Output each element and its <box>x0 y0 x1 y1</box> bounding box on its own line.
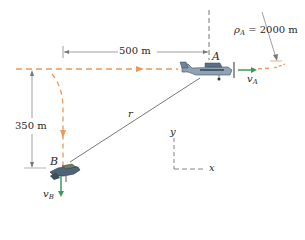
point-b-label: B <box>50 155 58 168</box>
dim-500-label: 500 m <box>119 45 151 56</box>
dim-500-arrow-right-icon <box>203 50 208 54</box>
dim-500-arrow-left-icon <box>64 50 69 54</box>
position-vector-label: r <box>128 108 133 119</box>
position-vector-r <box>70 78 200 162</box>
velocity-b-arrow-icon <box>58 191 64 197</box>
radius-arrow-icon <box>273 54 278 61</box>
path-a-curve <box>274 64 285 68</box>
point-a-label: A <box>212 50 220 63</box>
axis-y-label: y <box>170 126 176 137</box>
dim-350-arrow-bottom-icon <box>30 162 34 168</box>
axis-x-label: x <box>209 162 215 173</box>
radius-label: ρA = 2000 m <box>234 24 298 37</box>
path-a-continuation <box>258 68 272 69</box>
aircraft-a-icon <box>180 62 234 81</box>
dim-350-label: 350 m <box>15 120 47 131</box>
velocity-b-label: vB <box>43 188 54 201</box>
dim-350-arrow-top-icon <box>30 70 34 76</box>
path-b-arrow-icon <box>60 130 66 138</box>
velocity-a-label: vA <box>247 73 258 86</box>
path-a-arrow-icon <box>136 66 144 72</box>
